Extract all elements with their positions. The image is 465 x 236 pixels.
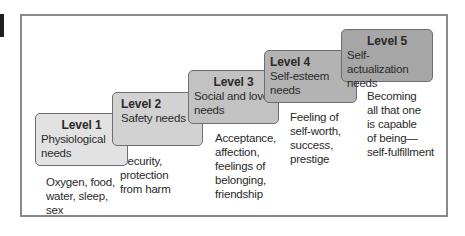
level-label: Level 2 bbox=[121, 97, 197, 111]
edge-mark bbox=[0, 14, 4, 37]
step-level-5: Level 5 Self-actualization needs bbox=[341, 29, 433, 82]
level-label: Level 4 bbox=[270, 55, 351, 69]
level-label: Level 5 bbox=[347, 34, 427, 48]
level-1-description: Oxygen, food, water, sleep, sex bbox=[46, 175, 115, 217]
level-3-description: Acceptance, affection, feelings of belon… bbox=[215, 131, 276, 201]
level-name: Safety needs bbox=[121, 111, 197, 125]
level-label: Level 1 bbox=[41, 118, 122, 132]
level-label: Level 3 bbox=[194, 75, 273, 89]
level-5-description: Becoming all that one is capable of bein… bbox=[367, 89, 434, 159]
level-name: Physiological needs bbox=[41, 132, 122, 160]
level-name: Self-esteem needs bbox=[270, 69, 351, 97]
level-name: Self-actualization needs bbox=[347, 48, 427, 90]
level-4-description: Feeling of self-worth, success, prestige bbox=[290, 110, 341, 166]
level-name: Social and love needs bbox=[194, 89, 273, 117]
